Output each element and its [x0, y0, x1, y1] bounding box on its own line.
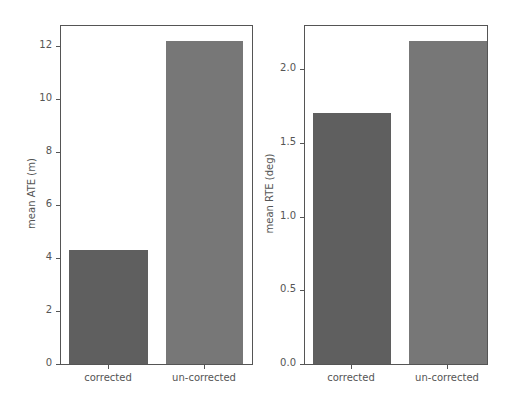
- ytick-label: 8: [12, 145, 52, 156]
- xtick-mark: [204, 365, 205, 369]
- ytick-mark: [56, 258, 60, 259]
- ytick-mark: [300, 364, 304, 365]
- bar-un-corrected: [409, 41, 487, 364]
- ytick-label: 0.5: [256, 283, 296, 294]
- ytick-mark: [56, 152, 60, 153]
- xtick-label: corrected: [306, 372, 396, 383]
- ytick-mark: [56, 205, 60, 206]
- ytick-mark: [300, 69, 304, 70]
- ytick-label: 1.5: [256, 136, 296, 147]
- ytick-label: 2: [12, 304, 52, 315]
- ytick-mark: [56, 99, 60, 100]
- ytick-label: 6: [12, 198, 52, 209]
- xtick-label: un-corrected: [159, 372, 249, 383]
- bar-corrected: [69, 250, 148, 364]
- plot-area: [304, 25, 488, 365]
- ytick-label: 0: [12, 357, 52, 368]
- y-axis-label: mean RTE (deg): [264, 134, 275, 254]
- xtick-label: corrected: [63, 372, 153, 383]
- xtick-label: un-corrected: [402, 372, 492, 383]
- xtick-mark: [447, 365, 448, 369]
- ytick-mark: [56, 46, 60, 47]
- ytick-label: 1.0: [256, 210, 296, 221]
- ytick-label: 2.0: [256, 62, 296, 73]
- ytick-label: 4: [12, 251, 52, 262]
- ytick-label: 0.0: [256, 357, 296, 368]
- ytick-label: 12: [12, 39, 52, 50]
- ytick-mark: [300, 143, 304, 144]
- bar-un-corrected: [166, 41, 243, 364]
- xtick-mark: [351, 365, 352, 369]
- ytick-label: 10: [12, 92, 52, 103]
- ytick-mark: [56, 364, 60, 365]
- xtick-mark: [108, 365, 109, 369]
- bar-corrected: [313, 113, 391, 364]
- ytick-mark: [300, 290, 304, 291]
- ytick-mark: [300, 217, 304, 218]
- ytick-mark: [56, 311, 60, 312]
- plot-area: [60, 25, 253, 365]
